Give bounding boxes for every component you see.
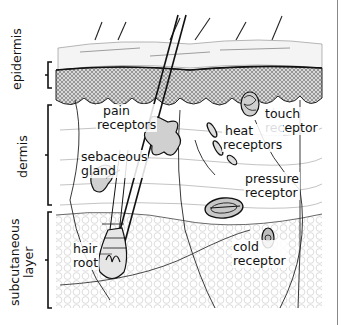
heat-label-line1: heat (223, 124, 282, 138)
hair-root-label: hair root (72, 242, 99, 270)
hair-root-label-line1: hair (73, 242, 98, 256)
pressure-receptor-label: pressure receptor (244, 172, 300, 200)
pressure-receptor-shape (204, 196, 244, 220)
touch-receptor-shape (241, 92, 259, 116)
pressure-label-line1: pressure (245, 172, 299, 186)
sebaceous-label-line1: sebaceous (81, 150, 147, 164)
epidermis-label: epidermis (10, 28, 24, 90)
touch-label-line1: touch (265, 107, 318, 121)
cold-receptor-label: cold receptor (232, 240, 287, 268)
pain-label-line1: pain (97, 104, 156, 118)
surface-hairs (95, 16, 282, 40)
pressure-label-line2: receptor (245, 186, 299, 200)
heat-receptors-label: heat receptors (222, 124, 283, 152)
cold-label-line2: receptor (233, 254, 286, 268)
cold-label-line1: cold (233, 240, 286, 254)
skin-illustration (0, 0, 342, 325)
sebaceous-label-line2: gland (81, 164, 147, 178)
layer-brackets (45, 62, 52, 308)
subcutaneous-label-line2: layer (22, 219, 36, 306)
heat-label-line2: receptors (223, 138, 282, 152)
pain-label-line2: receptors (97, 118, 156, 132)
subcutaneous-label-line1: subcutaneous (8, 219, 22, 306)
subcutaneous-layer-label: subcutaneous layer (8, 219, 36, 306)
right-border-line (337, 0, 338, 325)
sebaceous-gland-label: sebaceous gland (80, 150, 148, 178)
dermis-label: dermis (16, 135, 30, 178)
skin-diagram: epidermis dermis subcutaneous layer pain… (0, 0, 342, 325)
hair-root-label-line2: root (73, 256, 98, 270)
pain-receptors-label: pain receptors (96, 104, 157, 132)
